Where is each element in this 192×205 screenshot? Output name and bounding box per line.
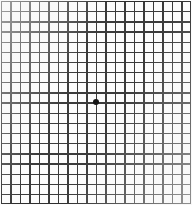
- central-fixation-dot: [93, 99, 99, 105]
- amsler-grid-chart: [0, 0, 192, 205]
